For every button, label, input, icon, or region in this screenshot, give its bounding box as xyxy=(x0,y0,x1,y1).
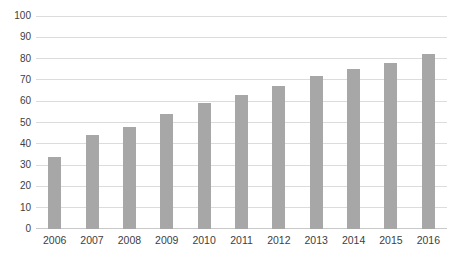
bar-2008 xyxy=(123,127,136,229)
x-axis-label-2006: 2006 xyxy=(36,234,74,246)
x-axis-label-2016: 2016 xyxy=(409,234,447,246)
y-axis-tick-label: 20 xyxy=(0,180,31,192)
x-axis-label-2013: 2013 xyxy=(297,234,335,246)
gridline xyxy=(36,16,447,17)
y-axis-tick-label: 10 xyxy=(0,202,31,214)
x-axis-label-2007: 2007 xyxy=(73,234,111,246)
bar-2014 xyxy=(347,69,360,229)
y-axis-tick-label: 60 xyxy=(0,95,31,107)
bar-2010 xyxy=(198,103,211,229)
x-axis-label-2014: 2014 xyxy=(335,234,373,246)
bar-2015 xyxy=(384,63,397,229)
y-axis-tick-label: 90 xyxy=(0,31,31,43)
y-axis-tick-label: 100 xyxy=(0,10,31,22)
y-axis-tick-label: 50 xyxy=(0,117,31,129)
plot-area xyxy=(36,16,447,229)
gridline xyxy=(36,37,447,38)
x-axis-label-2015: 2015 xyxy=(372,234,410,246)
bar-2016 xyxy=(422,54,435,229)
x-axis-label-2009: 2009 xyxy=(148,234,186,246)
gridline xyxy=(36,58,447,59)
y-axis-tick-label: 40 xyxy=(0,138,31,150)
bar-chart: 0102030405060708090100200620072008200920… xyxy=(0,0,451,260)
x-axis-label-2012: 2012 xyxy=(260,234,298,246)
y-axis-tick-label: 70 xyxy=(0,74,31,86)
x-axis-label-2008: 2008 xyxy=(110,234,148,246)
y-axis-tick-label: 0 xyxy=(0,223,31,235)
y-axis-tick-label: 80 xyxy=(0,53,31,65)
bar-2011 xyxy=(235,95,248,229)
x-axis-label-2010: 2010 xyxy=(185,234,223,246)
bar-2012 xyxy=(272,86,285,229)
bar-2013 xyxy=(310,76,323,229)
x-axis-label-2011: 2011 xyxy=(223,234,261,246)
y-axis-tick-label: 30 xyxy=(0,159,31,171)
bar-2006 xyxy=(48,157,61,229)
bar-2007 xyxy=(86,135,99,229)
bar-2009 xyxy=(160,114,173,229)
